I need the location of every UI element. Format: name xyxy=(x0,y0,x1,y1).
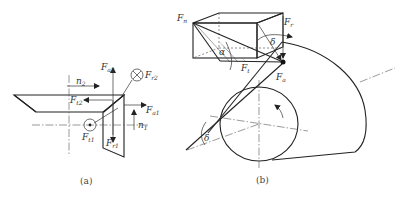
label-ft: Ft xyxy=(240,63,250,74)
cone-axis xyxy=(360,68,395,82)
contact-point xyxy=(281,60,286,65)
out-of-page-icon xyxy=(84,119,96,131)
cone-axis-extension xyxy=(187,124,259,150)
label-fr2: Fr2 xyxy=(144,70,158,81)
cone-outer-arc xyxy=(272,42,366,160)
caption-b: (b) xyxy=(256,175,269,185)
label-fa: Fa xyxy=(275,72,286,83)
figure-b: Fn Fr Ft Fa α δ δ (b) xyxy=(176,13,395,185)
label-ft1: Ft1 xyxy=(81,132,94,143)
label-ft2: Ft2 xyxy=(69,95,83,106)
leader-fr2 xyxy=(122,80,132,96)
label-n1: n1 xyxy=(138,120,148,131)
label-delta-top: δ xyxy=(270,37,275,47)
caption-a: (a) xyxy=(80,176,92,186)
label-fn: Fn xyxy=(176,13,187,24)
pitch-line xyxy=(186,64,282,150)
label-delta-bottom: δ xyxy=(204,133,209,143)
label-n2: n2 xyxy=(76,76,86,87)
figure-a: Fa2 Fr2 n2 Ft2 Fa1 n1 Ft1 Fr1 (a) xyxy=(14,62,160,186)
label-fa1: Fa1 xyxy=(145,105,160,116)
label-fr1: Fr1 xyxy=(105,138,119,149)
label-fa2: Fa2 xyxy=(100,62,115,73)
force-box xyxy=(190,13,294,62)
into-page-icon xyxy=(131,69,143,81)
label-fr: Fr xyxy=(283,17,294,28)
label-alpha: α xyxy=(219,47,225,57)
gear-2-edge xyxy=(14,95,36,112)
bevel-gear-force-diagram: Fa2 Fr2 n2 Ft2 Fa1 n1 Ft1 Fr1 (a) xyxy=(0,0,402,198)
alpha-arc xyxy=(226,42,232,70)
rotation-arrow xyxy=(275,105,283,118)
